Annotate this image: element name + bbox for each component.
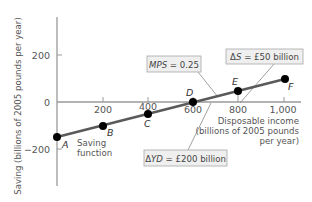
dyd-annotation: ΔYD = £200 billion bbox=[145, 154, 226, 164]
x-tick-label-200: 200 bbox=[94, 104, 112, 115]
saving-function-chart: Saving (billions of 2005 pounds per year… bbox=[0, 0, 312, 202]
saving-function-label-line1: Saving bbox=[77, 138, 106, 148]
point-label-d: D bbox=[186, 87, 193, 98]
point-b bbox=[99, 122, 107, 130]
point-label-f: F bbox=[288, 81, 294, 92]
point-label-b: B bbox=[107, 127, 114, 138]
point-c bbox=[144, 110, 152, 118]
ds-annotation: ΔS = £50 billion bbox=[230, 52, 299, 62]
point-d bbox=[189, 98, 197, 106]
y-tick-label-0: 0 bbox=[44, 97, 50, 108]
y-axis-title: Saving (billions of 2005 pounds per year… bbox=[13, 17, 23, 195]
x-tick-label-1000: 1,000 bbox=[269, 104, 296, 115]
x-axis-title-line2: (billions of 2005 pounds bbox=[196, 126, 300, 136]
saving-function-label-line2: function bbox=[77, 148, 112, 158]
point-label-a: A bbox=[61, 139, 69, 150]
y-tick-label-neg200: −200 bbox=[24, 144, 50, 155]
point-e bbox=[234, 87, 242, 95]
point-a bbox=[53, 133, 61, 141]
point-label-e: E bbox=[232, 76, 238, 87]
mps-leader-line bbox=[198, 72, 218, 97]
point-label-c: C bbox=[144, 118, 151, 129]
x-axis-title-line1: Disposable income bbox=[218, 116, 299, 126]
y-tick-label-200: 200 bbox=[32, 50, 50, 61]
x-tick-label-800: 800 bbox=[229, 104, 247, 115]
x-axis-title-line3: per year) bbox=[259, 136, 299, 146]
mps-annotation: MPS = 0.25 bbox=[149, 60, 199, 70]
